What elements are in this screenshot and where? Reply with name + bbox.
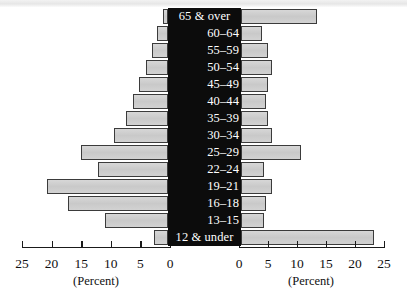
bar-row bbox=[241, 25, 407, 42]
left-axis-tick-label: 20 bbox=[45, 256, 59, 272]
left-bar bbox=[154, 230, 168, 245]
bar-row bbox=[241, 8, 407, 25]
right-bar bbox=[241, 9, 317, 24]
bar-row bbox=[0, 212, 168, 229]
right-bar-rows bbox=[241, 8, 407, 246]
right-bar bbox=[241, 162, 264, 177]
left-bar bbox=[114, 128, 168, 143]
left-bar bbox=[68, 196, 168, 211]
right-bar bbox=[241, 196, 266, 211]
bar-row bbox=[241, 127, 407, 144]
bar-row bbox=[0, 25, 168, 42]
right-axis-tick-label: 10 bbox=[290, 256, 304, 272]
right-axis-title: (Percent) bbox=[288, 274, 334, 289]
right-bar bbox=[241, 43, 268, 58]
bar-row bbox=[0, 178, 168, 195]
right-bar bbox=[241, 77, 268, 92]
left-bar-rows bbox=[0, 8, 168, 246]
left-bar bbox=[47, 179, 168, 194]
left-axis-tick bbox=[52, 241, 53, 248]
bar-row bbox=[241, 110, 407, 127]
bar-row bbox=[0, 161, 168, 178]
bar-row bbox=[0, 42, 168, 59]
age-group-label: 40–44 bbox=[168, 93, 241, 110]
left-bar bbox=[105, 213, 168, 228]
age-group-label: 55–59 bbox=[168, 42, 241, 59]
left-axis-line bbox=[22, 247, 170, 248]
right-bar bbox=[241, 179, 272, 194]
bar-row bbox=[241, 161, 407, 178]
population-pyramid-chart: 65 & over60–6455–5950–5445–4940–4435–393… bbox=[0, 0, 407, 294]
left-bar bbox=[126, 111, 168, 126]
age-group-label: 22–24 bbox=[168, 161, 241, 178]
right-axis-tick bbox=[297, 241, 298, 248]
left-axis-tick bbox=[81, 241, 82, 248]
left-axis-tick-label: 15 bbox=[74, 256, 88, 272]
right-bar bbox=[241, 94, 266, 109]
right-axis-tick-label: 15 bbox=[319, 256, 333, 272]
bar-row bbox=[241, 178, 407, 195]
left-axis-tick-label: 10 bbox=[104, 256, 118, 272]
right-bar bbox=[241, 111, 268, 126]
right-axis-tick-label: 0 bbox=[236, 256, 243, 272]
right-bar bbox=[241, 60, 272, 75]
bar-row bbox=[0, 229, 168, 246]
left-axis bbox=[22, 247, 170, 256]
bar-row bbox=[241, 229, 407, 246]
right-axis bbox=[239, 247, 384, 256]
age-group-label: 13–15 bbox=[168, 212, 241, 229]
right-bar bbox=[241, 26, 262, 41]
age-group-label: 30–34 bbox=[168, 127, 241, 144]
left-bar bbox=[139, 77, 168, 92]
bar-row bbox=[241, 59, 407, 76]
left-axis-tick-label: 25 bbox=[15, 256, 29, 272]
left-bars-panel bbox=[0, 8, 168, 246]
bar-row bbox=[241, 42, 407, 59]
left-axis-tick-label: 0 bbox=[167, 256, 174, 272]
right-axis-tick-label: 20 bbox=[348, 256, 362, 272]
scan-artifact-band bbox=[0, 0, 407, 7]
right-axis-line bbox=[239, 247, 384, 248]
age-group-label-panel: 65 & over60–6455–5950–5445–4940–4435–393… bbox=[168, 8, 241, 246]
right-axis-tick-label: 25 bbox=[377, 256, 391, 272]
right-bar bbox=[241, 145, 301, 160]
bar-row bbox=[0, 93, 168, 110]
bar-row bbox=[241, 212, 407, 229]
right-axis-tick bbox=[384, 241, 385, 248]
left-bar bbox=[157, 26, 168, 41]
right-bar bbox=[241, 213, 264, 228]
bar-row bbox=[241, 195, 407, 212]
right-axis-tick-labels: 0510152025 bbox=[239, 256, 384, 274]
bar-row bbox=[0, 110, 168, 127]
right-bars-panel bbox=[241, 8, 407, 246]
left-axis-tick bbox=[140, 241, 141, 248]
left-bar bbox=[152, 43, 168, 58]
right-bar bbox=[241, 128, 272, 143]
left-axis-tick bbox=[111, 241, 112, 248]
age-group-label: 19–21 bbox=[168, 178, 241, 195]
bar-row bbox=[0, 195, 168, 212]
left-bar bbox=[146, 60, 168, 75]
bar-row bbox=[241, 93, 407, 110]
right-axis-tick bbox=[268, 241, 269, 248]
right-axis-tick-label: 5 bbox=[265, 256, 272, 272]
bar-row bbox=[241, 76, 407, 93]
age-group-label: 50–54 bbox=[168, 59, 241, 76]
bar-row bbox=[0, 127, 168, 144]
bar-row bbox=[0, 8, 168, 25]
age-group-label: 65 & over bbox=[168, 8, 241, 25]
right-axis-tick bbox=[355, 241, 356, 248]
left-axis-tick bbox=[22, 241, 23, 248]
age-group-label: 35–39 bbox=[168, 110, 241, 127]
bar-row bbox=[241, 144, 407, 161]
left-bar bbox=[98, 162, 168, 177]
bar-row bbox=[0, 144, 168, 161]
age-group-label: 25–29 bbox=[168, 144, 241, 161]
bar-row bbox=[0, 76, 168, 93]
age-group-label: 45–49 bbox=[168, 76, 241, 93]
age-group-label: 16–18 bbox=[168, 195, 241, 212]
left-bar bbox=[133, 94, 168, 109]
age-group-label: 12 & under bbox=[168, 229, 241, 246]
left-axis-tick-label: 5 bbox=[137, 256, 144, 272]
right-axis-tick bbox=[326, 241, 327, 248]
